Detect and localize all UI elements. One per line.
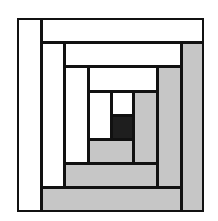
round2-left-light [64, 66, 89, 164]
round1-left-light [88, 91, 112, 140]
round4-left-light [17, 18, 42, 212]
round3-top-light [64, 42, 182, 67]
round1-top-light [111, 91, 134, 116]
round1-bottom-medium [88, 139, 134, 164]
round2-right-medium [157, 66, 182, 188]
round3-bottom-medium [41, 187, 182, 212]
round4-top-light [41, 18, 204, 43]
round1-right-medium [133, 91, 158, 164]
round2-top-light [88, 66, 158, 92]
center-square [111, 115, 134, 140]
round3-right-medium [181, 42, 204, 212]
round3-left-light [41, 42, 65, 188]
round2-bottom-medium [64, 163, 158, 188]
